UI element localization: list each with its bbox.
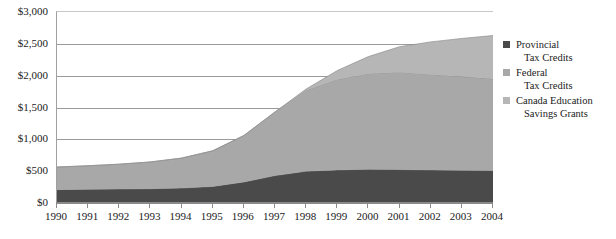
legend-label: Federal <box>516 66 548 79</box>
legend-label: Canada Education <box>516 94 593 107</box>
x-tick-label: 2000 <box>356 210 378 223</box>
x-tick-label: 1996 <box>232 210 254 223</box>
x-tick <box>243 203 244 208</box>
x-tick <box>274 203 275 208</box>
x-tick <box>336 203 337 208</box>
x-tick <box>56 203 57 208</box>
legend-label-line2: Savings Grants <box>503 107 613 120</box>
x-tick <box>118 203 119 208</box>
legend-label: Provincial <box>516 38 559 51</box>
legend-item[interactable]: ProvincialTax Credits <box>503 38 613 64</box>
x-tick-label: 1990 <box>45 210 67 223</box>
x-tick-label: 2001 <box>388 210 410 223</box>
x-tick-label: 2004 <box>481 210 503 223</box>
y-tick-label: $2,000 <box>18 69 48 80</box>
x-tick-label: 1993 <box>138 210 160 223</box>
x-tick <box>87 203 88 208</box>
area-series-group <box>57 12 493 203</box>
x-tick-label: 2002 <box>419 210 441 223</box>
x-tick <box>181 203 182 208</box>
y-tick-label: $0 <box>37 197 48 208</box>
x-tick <box>367 203 368 208</box>
legend-swatch-icon <box>503 69 510 76</box>
y-axis: $0$500$1,000$1,500$2,000$2,500$3,000 <box>0 0 52 239</box>
legend-label-line2: Tax Credits <box>503 51 613 64</box>
x-tick-label: 1995 <box>201 210 223 223</box>
legend-item[interactable]: FederalTax Credits <box>503 66 613 92</box>
x-axis: 1990199119921993199419951996199719981999… <box>56 210 493 230</box>
y-tick-label: $2,500 <box>18 37 48 48</box>
legend-item[interactable]: Canada EducationSavings Grants <box>503 94 613 120</box>
x-tick-label: 1999 <box>325 210 347 223</box>
y-tick-label: $500 <box>26 165 48 176</box>
x-tick-label: 1997 <box>263 210 285 223</box>
y-tick-label: $1,500 <box>18 101 48 112</box>
x-tick <box>212 203 213 208</box>
x-tick <box>461 203 462 208</box>
x-tick <box>305 203 306 208</box>
x-tick-label: 1991 <box>76 210 98 223</box>
x-tick <box>399 203 400 208</box>
x-tick-label: 1992 <box>107 210 129 223</box>
legend-label-line2: Tax Credits <box>503 79 613 92</box>
legend-swatch-icon <box>503 97 510 104</box>
y-tick-label: $3,000 <box>18 6 48 17</box>
chart-legend: ProvincialTax CreditsFederalTax CreditsC… <box>503 38 613 122</box>
x-tick <box>149 203 150 208</box>
y-tick-label: $1,000 <box>18 133 48 144</box>
x-tick <box>430 203 431 208</box>
legend-swatch-icon <box>503 41 510 48</box>
x-axis-ticks <box>56 203 493 208</box>
x-tick-label: 2003 <box>450 210 472 223</box>
x-tick-label: 1998 <box>294 210 316 223</box>
stacked-area-chart: $0$500$1,000$1,500$2,000$2,500$3,000 199… <box>0 0 616 239</box>
x-tick <box>492 203 493 208</box>
x-tick-label: 1994 <box>170 210 192 223</box>
plot-area <box>56 11 493 203</box>
